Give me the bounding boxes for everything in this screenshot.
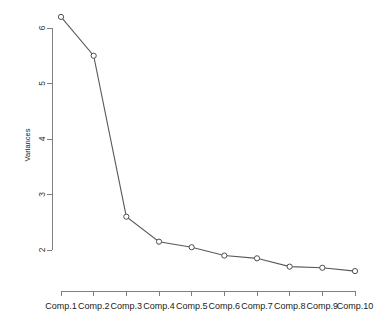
y-tick-label-2: 2 [37,247,47,252]
data-point-comp-8 [287,264,292,269]
x-axis-ticks [61,291,355,296]
data-point-comp-2 [91,53,96,58]
data-point-comp-4 [156,239,161,244]
data-point-comp-9 [320,265,325,270]
y-tick-label-5: 5 [37,81,47,86]
x-tick-label-comp-10: Comp.10 [337,301,374,311]
scree-plot-figure: 6 5 4 3 2 Variances Comp.1Comp.2Comp.3Co… [0,0,387,329]
y-tick-label-6: 6 [37,25,47,30]
y-tick-label-3: 3 [37,192,47,197]
y-axis-tick-labels: 6 5 4 3 2 [37,25,47,252]
chart-canvas: 6 5 4 3 2 Variances Comp.1Comp.2Comp.3Co… [0,0,387,329]
x-tick-label-comp-9: Comp.9 [307,301,339,311]
x-axis: Comp.1Comp.2Comp.3Comp.4Comp.5Comp.6Comp… [45,291,373,311]
x-tick-label-comp-2: Comp.2 [78,301,110,311]
data-point-comp-3 [124,214,129,219]
x-tick-label-comp-8: Comp.8 [274,301,306,311]
x-tick-label-comp-3: Comp.3 [111,301,143,311]
data-point-comp-6 [222,253,227,258]
y-axis-ticks [47,28,52,250]
data-point-comp-10 [352,268,357,273]
y-axis-title: Variances [23,128,32,161]
series-line [61,17,355,271]
y-tick-label-4: 4 [37,136,47,141]
data-point-comp-1 [58,14,63,19]
x-tick-label-comp-4: Comp.4 [143,301,175,311]
x-tick-label-comp-5: Comp.5 [176,301,208,311]
data-point-comp-5 [189,245,194,250]
y-axis: 6 5 4 3 2 Variances [23,25,52,252]
data-series-variances [58,14,357,273]
series-points [58,14,357,273]
x-tick-label-comp-1: Comp.1 [45,301,77,311]
x-axis-tick-labels: Comp.1Comp.2Comp.3Comp.4Comp.5Comp.6Comp… [45,301,373,311]
data-point-comp-7 [254,256,259,261]
x-tick-label-comp-6: Comp.6 [209,301,241,311]
x-tick-label-comp-7: Comp.7 [241,301,273,311]
